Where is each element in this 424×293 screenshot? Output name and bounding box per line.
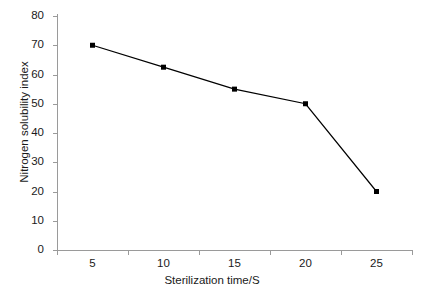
data-series-layer [0, 0, 424, 293]
data-line [93, 45, 377, 191]
data-point-marker [232, 87, 237, 92]
chart-figure: 01020304050607080 510152025 Nitrogen sol… [0, 0, 424, 293]
data-markers [90, 43, 379, 194]
data-point-marker [90, 43, 95, 48]
data-point-marker [303, 101, 308, 106]
data-point-marker [374, 189, 379, 194]
data-point-marker [161, 65, 166, 70]
